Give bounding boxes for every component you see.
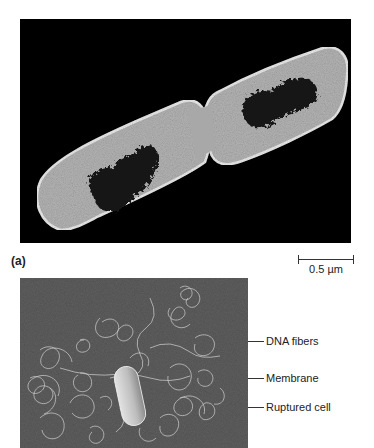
callout-dna-fibers: DNA fibers	[248, 334, 319, 348]
callout-label: DNA fibers	[266, 335, 319, 347]
callout-ruptured-cell: Ruptured cell	[248, 400, 331, 414]
panel-label-a: (a)	[11, 254, 26, 268]
dividing-cell-image	[20, 19, 351, 243]
callout-label: Ruptured cell	[266, 401, 331, 413]
callout-label: Membrane	[266, 372, 319, 384]
ruptured-cell-image	[20, 278, 248, 448]
scale-bar-label: 0.5 µm	[298, 263, 354, 275]
callout-membrane: Membrane	[248, 371, 319, 385]
leader-line	[248, 407, 264, 408]
scale-bar-line	[298, 259, 354, 260]
leader-line	[248, 378, 264, 379]
micrograph-panel-b	[20, 278, 248, 448]
micrograph-panel-a	[20, 19, 351, 243]
leader-line	[248, 341, 264, 342]
scale-bar: 0.5 µm	[298, 254, 354, 276]
